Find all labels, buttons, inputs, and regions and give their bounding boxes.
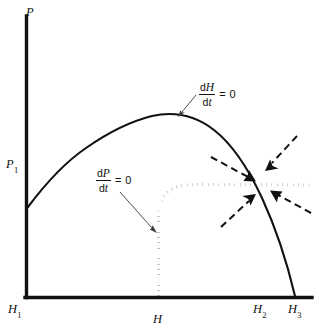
- equation-rhs: = 0: [219, 89, 236, 100]
- variable-t: t: [208, 96, 211, 108]
- fraction-denominator: dt: [202, 95, 213, 108]
- x-tick-base: H: [8, 302, 17, 316]
- phase-plane-plot: [0, 0, 319, 329]
- leader-line-dp: [120, 192, 157, 233]
- x-axis-tick-label-h3: H3: [288, 303, 301, 318]
- flow-arrow-lower-left: [221, 194, 256, 227]
- x-tick-base: H: [288, 302, 297, 316]
- x-axis-tick-label-h2: H2: [253, 303, 266, 318]
- flow-arrow-lower-right: [270, 191, 311, 214]
- fraction-dp-dt: dP dt: [96, 167, 111, 195]
- fraction-numerator: dH: [199, 81, 215, 95]
- fraction-denominator: dt: [98, 181, 109, 194]
- x-tick-subscript: 3: [297, 310, 301, 320]
- x-tick-base: H: [253, 302, 262, 316]
- variable-h: H: [206, 81, 214, 93]
- y-axis-tick-label-p1: P1: [6, 158, 18, 173]
- fraction-dh-dt: dH dt: [199, 81, 215, 109]
- leader-line-dh: [178, 95, 196, 117]
- annotation-dp-dt-equals-zero: dP dt = 0: [96, 167, 132, 195]
- axes-group: [25, 16, 312, 298]
- variable-p: P: [103, 167, 110, 179]
- flow-arrow-upper-left: [211, 157, 256, 182]
- x-axis-label: H: [153, 313, 162, 326]
- y-tick-base: P: [6, 157, 14, 171]
- x-axis-tick-label-h1: H1: [8, 303, 21, 318]
- y-axis-label: P: [26, 6, 34, 19]
- equation-rhs: = 0: [115, 175, 132, 186]
- x-tick-subscript: 1: [17, 310, 21, 320]
- variable-t: t: [105, 182, 108, 194]
- flow-arrows-group: [211, 136, 311, 227]
- annotation-dh-dt-equals-zero: dH dt = 0: [199, 81, 236, 109]
- x-tick-subscript: 2: [262, 310, 266, 320]
- phase-plane-figure: P P1 H1 H2 H3 H dH dt = 0 dP dt = 0: [0, 0, 319, 329]
- dh-dt-nullcline-curve: [28, 114, 295, 296]
- y-tick-subscript: 1: [14, 165, 18, 175]
- fraction-numerator: dP: [96, 167, 111, 181]
- flow-arrow-upper-right: [265, 136, 297, 171]
